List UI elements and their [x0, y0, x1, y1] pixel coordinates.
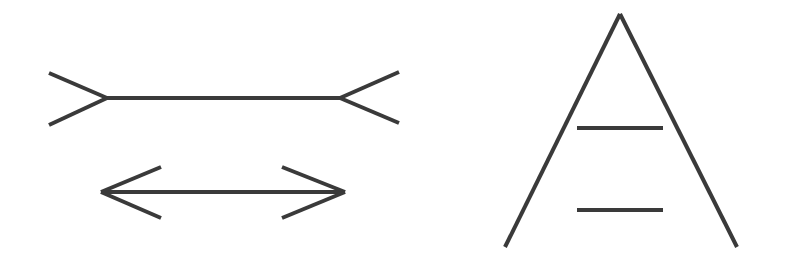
- left-arrowhead-line: [101, 167, 161, 192]
- right-arrowhead-line: [282, 167, 345, 192]
- optical-illusions-figure: [0, 0, 786, 272]
- illusion-figure-canvas: [0, 0, 786, 272]
- fins-in-arrow-line: [101, 167, 345, 218]
- ponzo-converging-legs: [505, 14, 737, 247]
- right-fin-line: [340, 98, 399, 123]
- muller-lyer-illusion: [49, 72, 399, 218]
- right-fin-line: [340, 72, 399, 98]
- left-fin-line: [49, 73, 107, 98]
- fins-out-line: [49, 72, 399, 125]
- converging-leg-line: [620, 14, 737, 247]
- ponzo-horizontal-bars: [577, 128, 663, 210]
- left-fin-line: [49, 98, 107, 125]
- converging-leg-line: [505, 14, 620, 247]
- right-arrowhead-line: [282, 192, 345, 218]
- ponzo-illusion: [505, 14, 737, 247]
- left-arrowhead-line: [101, 192, 161, 218]
